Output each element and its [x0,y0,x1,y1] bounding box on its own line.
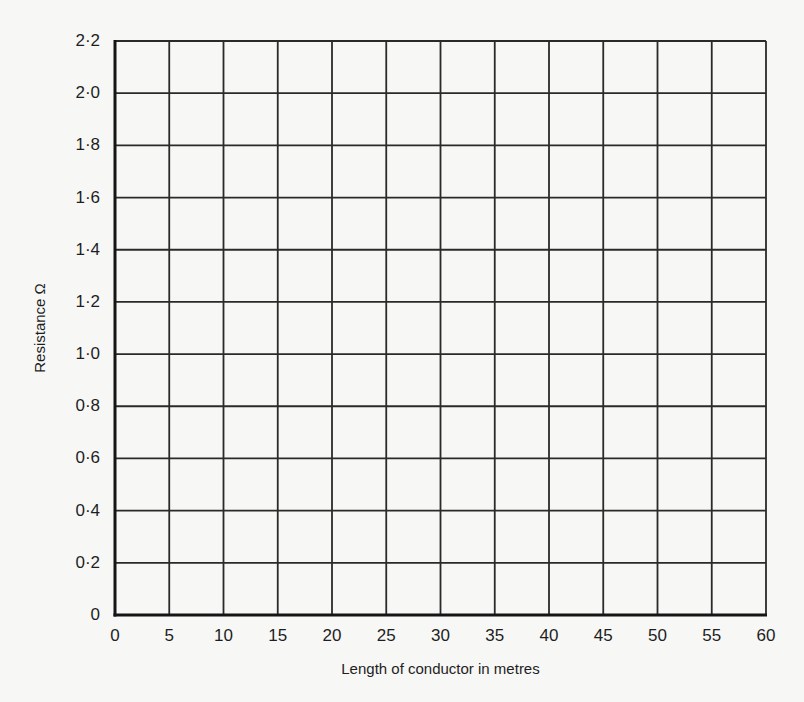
y-tick-label: 2·2 [40,32,100,50]
y-tick-label: 0·6 [40,449,100,467]
y-tick-label: 0·8 [40,397,100,415]
x-tick-label: 25 [366,627,406,645]
x-tick-label: 40 [529,627,569,645]
plot-grid [0,0,804,702]
y-tick-label: 0·2 [40,554,100,572]
x-tick-label: 35 [475,627,515,645]
x-tick-label: 5 [149,627,189,645]
y-tick-label: 0 [40,606,100,624]
x-tick-label: 55 [692,627,732,645]
y-tick-label: 1·4 [40,241,100,259]
x-tick-label: 50 [638,627,678,645]
x-axis-label: Length of conductor in metres [115,660,766,677]
x-tick-label: 60 [746,627,786,645]
x-tick-label: 20 [312,627,352,645]
x-tick-label: 15 [258,627,298,645]
y-tick-label: 1·8 [40,136,100,154]
x-tick-label: 10 [204,627,244,645]
y-tick-label: 2·0 [40,84,100,102]
chart-area: 00·20·40·60·81·01·21·41·61·82·02·2 05101… [0,0,804,702]
y-tick-label: 1·2 [40,293,100,311]
y-tick-label: 1·0 [40,345,100,363]
y-tick-label: 0·4 [40,502,100,520]
x-tick-label: 30 [421,627,461,645]
x-tick-label: 45 [583,627,623,645]
y-tick-label: 1·6 [40,189,100,207]
x-tick-label: 0 [95,627,135,645]
y-axis-label: Resistance Ω [31,283,48,373]
